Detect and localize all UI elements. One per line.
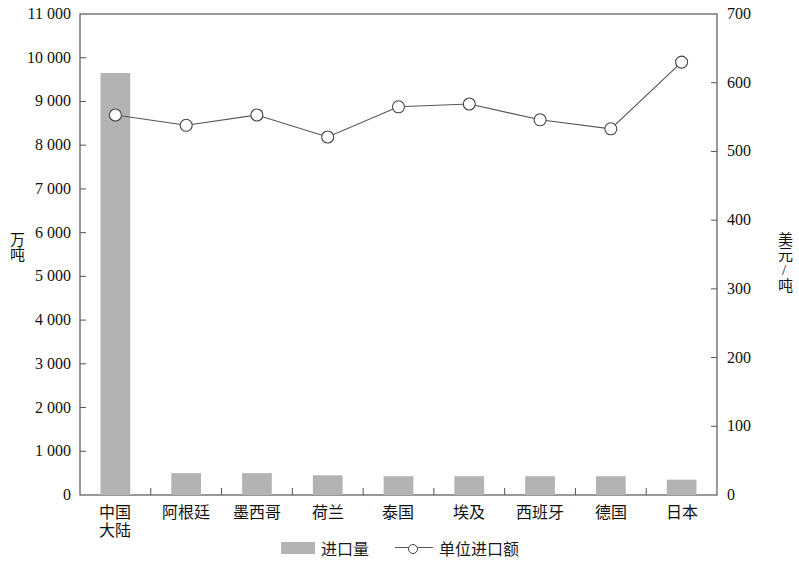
x-axis-label: 日本 [646,504,717,522]
legend-label-bar: 进口量 [321,536,369,560]
y-left-tick: 11 000 [28,6,71,22]
bar-swatch-icon [281,542,315,554]
legend-label-line: 单位进口额 [439,536,519,560]
x-axis-label-line1: 埃及 [434,504,505,522]
legend-item-bar: 进口量 [281,536,369,560]
x-axis-label-line1: 墨西哥 [222,504,293,522]
bar [596,476,626,495]
y-left-tick: 10 000 [27,50,71,66]
line-marker [393,101,405,113]
x-axis-label-line1: 泰国 [363,504,434,522]
bar [171,473,201,495]
x-axis-label-line1: 德国 [575,504,646,522]
x-axis-label-line1: 日本 [646,504,717,522]
y-right-tick: 100 [727,418,751,434]
x-axis-label-line1: 西班牙 [505,504,576,522]
x-axis-label-line1: 中国 [80,504,151,522]
line-marker [463,98,475,110]
line-path [115,62,681,137]
chart-container: 万吨 美元/吨 01 0002 0003 0004 0005 0006 0007… [0,0,799,565]
y-right-tick: 600 [727,75,751,91]
y-right-tick: 300 [727,281,751,297]
bar-series-进口量 [101,73,697,495]
y-left-tick: 7 000 [35,181,71,197]
x-axis-label: 德国 [575,504,646,522]
x-axis-label-line1: 荷兰 [292,504,363,522]
line-marker [322,131,334,143]
plot-frame [80,14,717,495]
y-right-tick: 700 [727,6,751,22]
bar [101,73,131,495]
y-left-tick: 0 [63,487,71,503]
y-left-tick: 2 000 [35,400,71,416]
x-axis-label: 泰国 [363,504,434,522]
x-axis-label-line1: 阿根廷 [151,504,222,522]
bar [525,476,555,495]
plot-area [0,0,799,565]
y-right-tick: 200 [727,350,751,366]
line-marker [109,109,121,121]
x-axis-label: 阿根廷 [151,504,222,522]
bar [454,476,484,495]
x-axis-label: 埃及 [434,504,505,522]
y-right-tick: 0 [727,487,735,503]
line-marker [534,114,546,126]
x-axis-label: 荷兰 [292,504,363,522]
bar [313,475,343,495]
line-marker [605,123,617,135]
line-circle-icon [395,542,433,554]
line-series-单位进口额 [115,62,681,137]
y-left-tick: 4 000 [35,312,71,328]
bar [242,473,272,495]
chart-legend: 进口量 单位进口额 [0,536,799,560]
y-left-tick: 5 000 [35,268,71,284]
y-left-tick: 1 000 [35,443,71,459]
line-markers [109,56,687,143]
y-right-tick: 400 [727,212,751,228]
bar [667,480,697,495]
x-axis-label: 西班牙 [505,504,576,522]
y-left-tick: 9 000 [35,93,71,109]
line-marker [180,119,192,131]
y-left-tick: 6 000 [35,225,71,241]
line-marker [251,109,263,121]
y-left-tick: 3 000 [35,356,71,372]
bar [384,476,414,495]
x-axis-label: 墨西哥 [222,504,293,522]
y-left-tick: 8 000 [35,137,71,153]
y-right-tick: 500 [727,143,751,159]
legend-item-line: 单位进口额 [395,536,519,560]
line-marker [676,56,688,68]
